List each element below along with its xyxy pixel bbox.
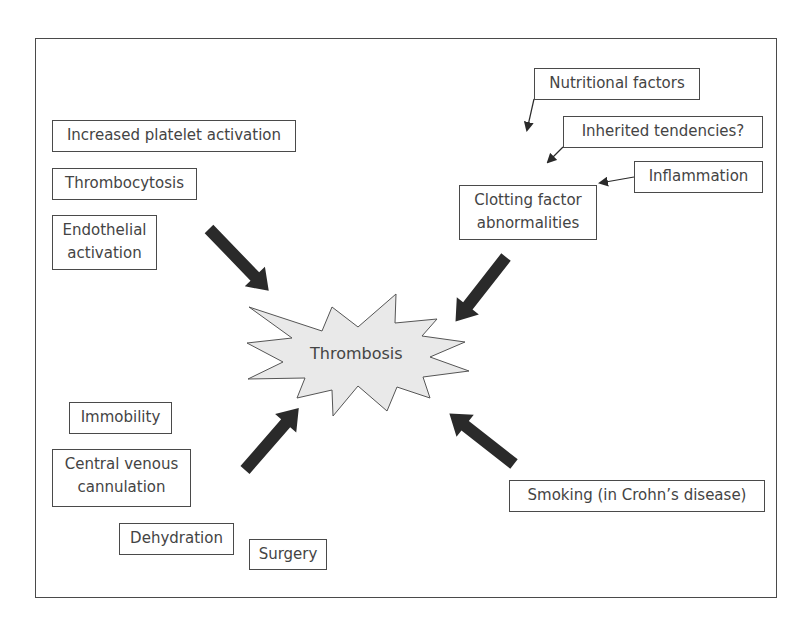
arrow-topright-icon <box>444 248 517 330</box>
factor-inflammation: Inflammation <box>634 161 763 193</box>
factor-endothelial-activation: Endothelial activation <box>52 215 157 270</box>
factor-clotting: Clotting factor abnormalities <box>459 185 597 240</box>
endothelial-line2: activation <box>60 242 149 265</box>
factor-surgery: Surgery <box>249 539 327 570</box>
factor-platelet-activation: Increased platelet activation <box>52 120 296 152</box>
factor-thrombocytosis: Thrombocytosis <box>52 168 197 200</box>
thrombosis-label: Thrombosis <box>310 344 403 363</box>
arrow-nutritional-icon <box>527 99 534 130</box>
arrow-bottomright-icon <box>441 402 523 475</box>
factor-inherited: Inherited tendencies? <box>563 116 763 148</box>
factor-nutritional: Nutritional factors <box>534 68 700 100</box>
factor-smoking: Smoking (in Crohn’s disease) <box>509 480 765 512</box>
factor-central-venous-cannulation: Central venous cannulation <box>52 449 191 507</box>
factor-dehydration: Dehydration <box>119 523 234 555</box>
arrow-topleft-icon <box>199 219 279 300</box>
cvc-line2: cannulation <box>60 476 183 499</box>
endothelial-line1: Endothelial <box>60 219 149 242</box>
arrow-bottomleft-icon <box>234 399 309 479</box>
clotting-line1: Clotting factor <box>467 189 589 212</box>
arrow-inherited-icon <box>548 147 563 162</box>
arrow-inflammation-icon <box>600 177 634 183</box>
factor-immobility: Immobility <box>69 402 172 434</box>
clotting-line2: abnormalities <box>467 212 589 235</box>
cvc-line1: Central venous <box>60 453 183 476</box>
